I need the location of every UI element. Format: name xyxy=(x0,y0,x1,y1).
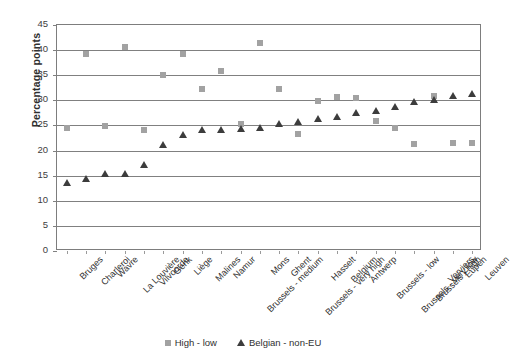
data-point xyxy=(218,68,224,74)
y-axis-tick-label: 30 xyxy=(22,94,48,104)
data-point xyxy=(314,115,322,122)
x-axis-tick-mark xyxy=(414,251,415,254)
y-axis-tick-mark xyxy=(53,226,57,227)
y-axis-tick-mark xyxy=(53,176,57,177)
x-axis-tick-mark xyxy=(337,251,338,254)
data-point xyxy=(82,175,90,182)
data-point xyxy=(179,131,187,138)
y-axis-tick-mark xyxy=(53,125,57,126)
y-axis-tick-label: 15 xyxy=(22,170,48,180)
x-axis-tick-mark xyxy=(221,251,222,254)
x-axis-tick-mark xyxy=(105,251,106,254)
x-axis-tick-mark xyxy=(376,251,377,254)
y-axis-tick-label: 5 xyxy=(22,220,48,230)
legend-item-belgian-non-eu[interactable]: Belgian - non-EU xyxy=(237,337,321,348)
data-point xyxy=(101,170,109,177)
gridline xyxy=(57,151,480,152)
gridline xyxy=(57,226,480,227)
data-point xyxy=(372,107,380,114)
data-point xyxy=(449,92,457,99)
data-point xyxy=(64,125,70,131)
y-axis-tick-label: 40 xyxy=(22,44,48,54)
y-axis-tick-label: 0 xyxy=(22,245,48,255)
data-point xyxy=(122,44,128,50)
x-axis-category-label: Leuven xyxy=(484,255,511,282)
data-point xyxy=(315,98,321,104)
y-axis-tick-mark xyxy=(53,25,57,26)
chart-legend: High - low Belgian - non-EU xyxy=(0,337,486,348)
data-point xyxy=(352,109,360,116)
data-point xyxy=(391,103,399,110)
data-point xyxy=(198,126,206,133)
data-point xyxy=(257,40,263,46)
data-point xyxy=(199,86,205,92)
data-point xyxy=(410,98,418,105)
data-point xyxy=(333,113,341,120)
x-axis-category-label: Mons xyxy=(269,255,291,277)
square-marker-icon xyxy=(165,340,171,346)
x-axis-tick-mark xyxy=(453,251,454,254)
data-point xyxy=(334,94,340,100)
x-axis-tick-mark xyxy=(67,251,68,254)
x-axis-category-label: Brussels - very high xyxy=(325,255,387,317)
data-point xyxy=(140,161,148,168)
data-point xyxy=(295,131,301,137)
x-axis-tick-mark xyxy=(298,251,299,254)
data-point xyxy=(392,125,398,131)
x-axis-tick-mark xyxy=(356,251,357,254)
x-axis-tick-mark xyxy=(279,251,280,254)
data-point xyxy=(160,72,166,78)
gridline xyxy=(57,125,480,126)
gridline xyxy=(57,50,480,51)
data-point xyxy=(468,90,476,97)
triangle-marker-icon xyxy=(237,339,245,346)
y-axis-tick-mark xyxy=(53,100,57,101)
data-point xyxy=(275,120,283,127)
legend-label-belgian-non-eu: Belgian - non-EU xyxy=(249,337,321,348)
y-axis-tick-label: 35 xyxy=(22,69,48,79)
x-axis-tick-mark xyxy=(260,251,261,254)
legend-label-high-low: High - low xyxy=(175,337,217,348)
data-point xyxy=(237,125,245,132)
y-axis-tick-mark xyxy=(53,151,57,152)
plot-area xyxy=(56,24,481,250)
data-point xyxy=(469,140,475,146)
data-point xyxy=(121,170,129,177)
y-axis-tick-label: 10 xyxy=(22,195,48,205)
y-axis-tick-label: 25 xyxy=(22,119,48,129)
data-point xyxy=(276,86,282,92)
data-point xyxy=(63,179,71,186)
data-point xyxy=(217,126,225,133)
x-axis-category-label: Liège xyxy=(192,255,214,277)
y-axis-tick-label: 20 xyxy=(22,145,48,155)
data-point xyxy=(353,95,359,101)
gridline xyxy=(57,201,480,202)
data-point xyxy=(411,141,417,147)
y-axis-tick-mark xyxy=(53,75,57,76)
x-axis-tick-mark xyxy=(395,251,396,254)
y-axis-tick-mark xyxy=(53,201,57,202)
data-point xyxy=(450,140,456,146)
data-point xyxy=(430,96,438,103)
data-point xyxy=(373,118,379,124)
x-axis-tick-mark xyxy=(144,251,145,254)
data-point xyxy=(102,123,108,129)
x-axis-tick-mark xyxy=(86,251,87,254)
data-point xyxy=(256,124,264,131)
data-point xyxy=(141,127,147,133)
data-point xyxy=(83,51,89,57)
data-point xyxy=(294,118,302,125)
data-point xyxy=(180,51,186,57)
x-axis-tick-mark xyxy=(202,251,203,254)
data-point xyxy=(159,141,167,148)
y-axis-tick-label: 45 xyxy=(22,19,48,29)
x-axis-tick-mark xyxy=(163,251,164,254)
y-axis-tick-mark xyxy=(53,251,57,252)
gridline xyxy=(57,75,480,76)
x-axis-tick-mark xyxy=(241,251,242,254)
y-axis-tick-mark xyxy=(53,50,57,51)
legend-item-high-low[interactable]: High - low xyxy=(165,337,217,348)
